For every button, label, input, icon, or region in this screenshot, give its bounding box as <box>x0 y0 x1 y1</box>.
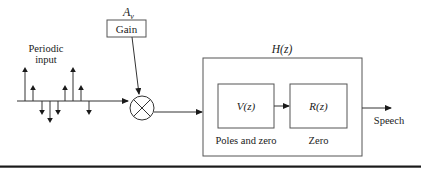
pulse-arrowhead-icon <box>22 67 28 72</box>
r-block-label: R(z) <box>308 100 328 113</box>
gain-arrow <box>132 37 139 94</box>
pulse-arrowhead-icon <box>30 85 36 90</box>
gain-block: Gain <box>107 20 146 37</box>
r-block: R(z) <box>290 84 347 128</box>
pulse-arrowhead-icon <box>47 118 53 123</box>
output-label: Speech <box>374 115 405 126</box>
periodic-input-label-1: Periodic <box>29 43 64 54</box>
v-block: V(z) <box>218 84 274 128</box>
v-block-label: V(z) <box>237 100 256 113</box>
pulse-arrowhead-icon <box>55 110 61 115</box>
pulse-arrowhead-icon <box>86 110 92 115</box>
r-block-caption: Zero <box>309 135 329 146</box>
periodic-input-label-2: input <box>35 54 57 65</box>
bottom-rule <box>0 166 421 168</box>
gain-symbol: Av <box>122 5 134 21</box>
pulse-arrowhead-icon <box>70 67 76 72</box>
gain-label: Gain <box>116 23 138 35</box>
system-label: H(z) <box>271 43 293 56</box>
speech-production-diagram: Av Gain Periodic input H(z) <box>0 0 421 173</box>
multiplier-node <box>130 96 154 120</box>
pulse-arrowhead-icon <box>78 85 84 90</box>
v-block-caption: Poles and zero <box>215 135 276 146</box>
pulse-arrowhead-icon <box>39 110 45 115</box>
pulse-arrowhead-icon <box>62 85 68 90</box>
pulse-train <box>22 67 92 123</box>
